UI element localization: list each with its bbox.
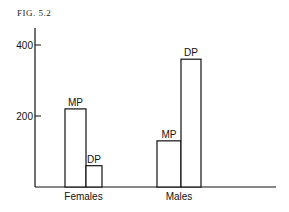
y-tick-label: 200 [16, 111, 33, 122]
bar-dp-females [86, 166, 102, 187]
bar-mp-females [65, 109, 86, 187]
bar-label: DP [87, 154, 101, 165]
bar-mp-males [157, 141, 181, 187]
bar-label: DP [184, 47, 198, 58]
bar-chart: 200400 MPDPMPDP FemalesMales [0, 0, 289, 212]
bar-label: MP [162, 129, 177, 140]
y-ticks: 200400 [16, 40, 41, 122]
category-label: Males [166, 191, 193, 202]
bars: MPDPMPDP [65, 47, 201, 187]
bar-label: MP [68, 97, 83, 108]
x-labels: FemalesMales [64, 191, 192, 202]
bar-dp-males [181, 59, 201, 187]
y-tick-label: 400 [16, 40, 33, 51]
category-label: Females [64, 191, 102, 202]
